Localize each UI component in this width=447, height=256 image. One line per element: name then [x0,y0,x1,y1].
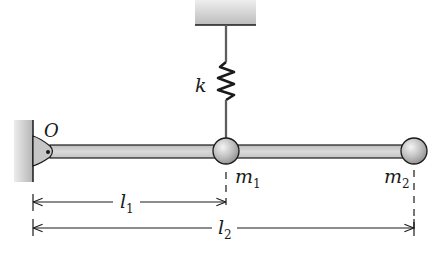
m2-sub: 2 [402,177,410,191]
mass-m1-label: m1 [235,165,261,187]
m2-base: m [384,165,402,187]
pivot-o-text: O [44,120,59,141]
length-l1-label: l1 [120,190,134,212]
spring-k-text: k [195,74,207,96]
l2-sub: 2 [224,228,232,242]
mechanics-diagram: k O m1 m2 l1 l2 [0,0,447,256]
m1-base: m [235,165,253,187]
mass-m2-label: m2 [384,165,410,187]
mass-m1 [213,138,239,164]
wall-support [14,120,33,182]
spring-constant-label: k [195,74,207,96]
length-l2-label: l2 [218,216,232,238]
m1-sub: 1 [253,177,261,191]
mass-m2 [401,138,427,164]
l1-sub: 1 [126,202,134,216]
pivot-label: O [44,120,59,141]
ceiling-support [195,0,256,25]
spring [218,25,234,139]
